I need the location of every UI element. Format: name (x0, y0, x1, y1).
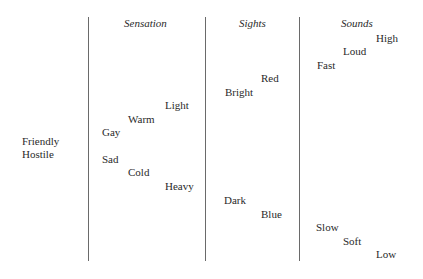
word-high: High (376, 32, 398, 44)
word-gay: Gay (102, 126, 120, 138)
divider-line-1 (88, 17, 89, 261)
divider-line-2 (205, 17, 206, 261)
sights-header: Sights (239, 17, 266, 29)
word-blue: Blue (261, 208, 282, 220)
word-slow: Slow (316, 221, 339, 233)
friendly-label: Friendly (22, 135, 59, 147)
word-light: Light (165, 99, 189, 111)
word-red: Red (261, 72, 279, 84)
sounds-header: Sounds (341, 17, 373, 29)
word-sad: Sad (102, 153, 119, 165)
word-cold: Cold (128, 166, 149, 178)
word-bright: Bright (225, 86, 253, 98)
word-loud: Loud (343, 45, 366, 57)
divider-line-3 (299, 17, 300, 261)
word-dark: Dark (224, 194, 246, 206)
hostile-label: Hostile (22, 148, 54, 160)
word-soft: Soft (343, 235, 361, 247)
word-warm: Warm (128, 113, 155, 125)
word-fast: Fast (317, 59, 335, 71)
word-heavy: Heavy (165, 180, 194, 192)
sensation-header: Sensation (124, 17, 167, 29)
word-low: Low (376, 248, 396, 260)
